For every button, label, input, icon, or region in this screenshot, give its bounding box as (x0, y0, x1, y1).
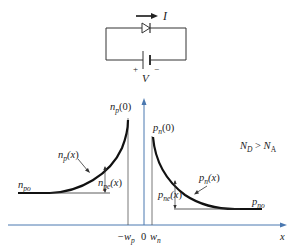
plus-label: + (133, 64, 138, 74)
tick-zero: 0 (141, 231, 146, 242)
npe-label: npe(x) (98, 177, 123, 191)
minus-label: − (154, 64, 159, 74)
doping-condition-label: ND > NA (239, 140, 277, 154)
pn-junction-diagram: I + − V (0, 0, 298, 249)
current-label: I (162, 9, 168, 23)
pne-label: pne(x) (157, 189, 183, 203)
x-axis (8, 223, 287, 228)
tick-minus-wp: −wp (117, 231, 135, 245)
pn-pointer-arrow-icon (194, 186, 207, 195)
npx-label: np(x) (58, 149, 79, 163)
battery-icon (143, 51, 150, 69)
y-axis-arrow-icon (142, 98, 147, 105)
voltage-label: V (142, 72, 150, 84)
pn0-label: pn(0) (152, 122, 175, 136)
pno-label: pno (251, 196, 265, 210)
current-arrow-icon (136, 13, 158, 19)
diode-icon (142, 23, 150, 33)
circuit-wire (106, 28, 186, 60)
x-axis-label: x (279, 231, 285, 242)
np0-label: np(0) (110, 101, 132, 115)
np-pointer-arrow-icon (78, 159, 90, 173)
y-axis (142, 98, 147, 225)
x-axis-arrow-icon (280, 223, 287, 228)
tick-wn: wn (150, 231, 161, 245)
carrier-graph: np(0) np(x) npe(x) npo pn(0) pn(x) pne(x… (8, 98, 287, 245)
pnx-label: pn(x) (198, 172, 220, 186)
npo-label: npo (18, 179, 31, 193)
circuit: I + − V (106, 9, 186, 84)
